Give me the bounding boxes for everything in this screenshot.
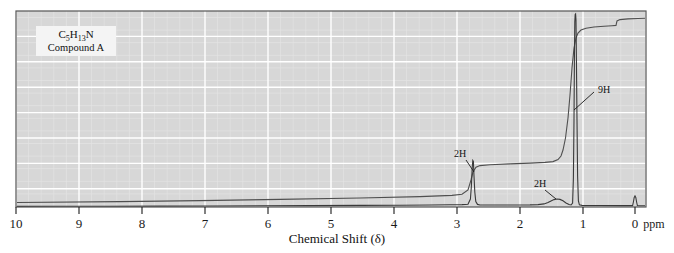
compound-name-label: Compound A bbox=[48, 42, 105, 53]
x-tick-label-5: 5 bbox=[328, 216, 335, 231]
x-axis-title: Chemical Shift (δ) bbox=[289, 231, 385, 246]
nmr-spectrum-figure: 10 9 8 7 6 5 4 3 2 1 0 ppm Chemical Shif… bbox=[0, 0, 674, 253]
ppm-unit-label: ppm bbox=[643, 217, 665, 231]
compound-annotation-box: C5H13N Compound A bbox=[36, 26, 116, 56]
peak-label-9h: 9H bbox=[598, 84, 610, 95]
spectrum-canvas: 10 9 8 7 6 5 4 3 2 1 0 ppm Chemical Shif… bbox=[0, 0, 674, 253]
x-tick-label-7: 7 bbox=[202, 216, 209, 231]
x-tick-label-3: 3 bbox=[454, 216, 461, 231]
x-tick-label-10: 10 bbox=[10, 216, 23, 231]
x-tick-label-6: 6 bbox=[265, 216, 272, 231]
x-tick-label-2: 2 bbox=[517, 216, 524, 231]
peak-label-2h-b: 2H bbox=[534, 178, 546, 189]
x-tick-label-8: 8 bbox=[139, 216, 146, 231]
x-tick-label-4: 4 bbox=[391, 216, 398, 231]
x-tick-label-1: 1 bbox=[580, 216, 587, 231]
x-tick-label-0: 0 bbox=[632, 216, 639, 231]
x-tick-label-9: 9 bbox=[76, 216, 83, 231]
peak-label-2h-a: 2H bbox=[454, 148, 466, 159]
